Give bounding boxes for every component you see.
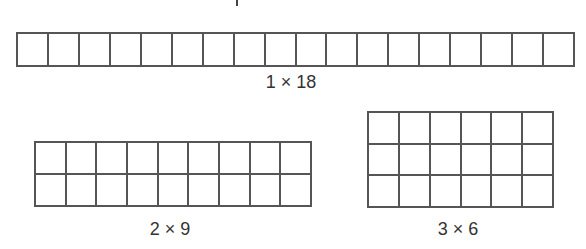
unit-square [97,143,128,175]
array-2x9 [34,141,312,207]
unit-square [251,143,282,175]
unit-square [142,34,173,67]
unit-square [462,145,493,177]
unit-square [369,176,400,208]
unit-square [431,145,462,177]
unit-square [173,34,204,67]
unit-square [400,145,431,177]
unit-square [97,175,128,207]
unit-square [159,143,190,175]
unit-square [492,176,523,208]
unit-square [159,175,190,207]
unit-square [389,34,420,67]
unit-square [523,145,554,177]
unit-square [67,143,98,175]
unit-square [36,175,67,207]
unit-square [358,34,389,67]
unit-square [544,34,575,67]
cropped-text-fragment [236,0,238,6]
unit-square [281,175,312,207]
unit-square [128,143,159,175]
array-1x18-label: 1 × 18 [241,72,341,93]
array-2x9-label: 2 × 9 [120,219,220,240]
unit-square [400,113,431,145]
unit-square [431,176,462,208]
unit-square [451,34,482,67]
array-1x18 [16,32,575,67]
unit-square [204,34,235,67]
unit-square [18,34,49,67]
unit-square [67,175,98,207]
unit-square [281,143,312,175]
unit-square [327,34,358,67]
unit-square [462,113,493,145]
unit-square [492,145,523,177]
unit-square [189,143,220,175]
unit-square [49,34,80,67]
unit-square [462,176,493,208]
unit-square [220,175,251,207]
unit-square [523,113,554,145]
unit-square [189,175,220,207]
unit-square [400,176,431,208]
unit-square [111,34,142,67]
unit-square [431,113,462,145]
unit-square [128,175,159,207]
unit-square [369,145,400,177]
unit-square [369,113,400,145]
unit-square [251,175,282,207]
unit-square [266,34,297,67]
unit-square [80,34,111,67]
unit-square [420,34,451,67]
unit-square [513,34,544,67]
unit-square [36,143,67,175]
unit-square [220,143,251,175]
unit-square [492,113,523,145]
array-3x6-label: 3 × 6 [408,219,508,240]
unit-square [297,34,328,67]
unit-square [235,34,266,67]
unit-square [482,34,513,67]
unit-square [523,176,554,208]
array-3x6 [367,111,554,208]
